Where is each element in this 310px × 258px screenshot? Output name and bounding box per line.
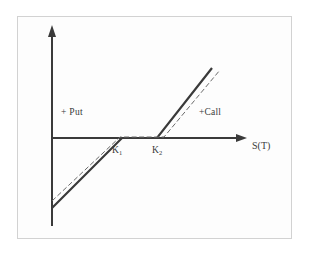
y-axis: [48, 25, 56, 226]
payoff-diagram-figure: + Put +Call S(T) K1 K2: [0, 0, 310, 258]
call-annotation-label: +Call: [199, 108, 221, 118]
strike-k2-label: K2: [152, 146, 162, 156]
strike-k2-subscript: 2: [159, 149, 162, 156]
strike-k1-label: K1: [112, 146, 122, 156]
strike-k1-base: K: [112, 145, 119, 155]
x-axis-label: S(T): [252, 141, 270, 151]
put-annotation-label: + Put: [61, 108, 83, 118]
payoff-plot-svg: [0, 0, 310, 258]
strike-k2-base: K: [152, 145, 159, 155]
strike-k1-subscript: 1: [119, 149, 122, 156]
